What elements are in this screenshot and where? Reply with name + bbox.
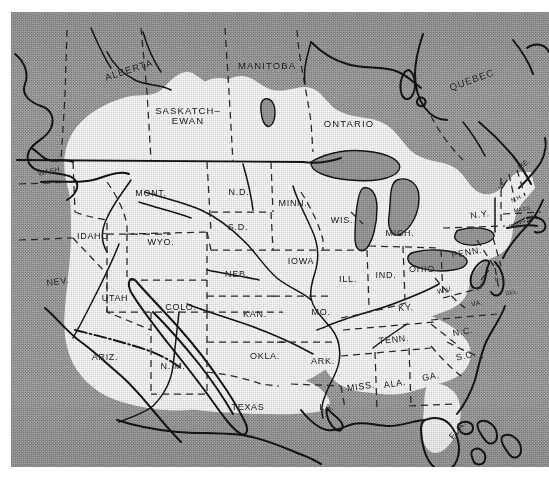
lake-winnipeg: [261, 99, 275, 127]
map-frame: ALBERTASASKATCH– EWANMANITOBAONTARIOQUEB…: [11, 12, 549, 467]
map-figure-page: ALBERTASASKATCH– EWANMANITOBAONTARIOQUEB…: [0, 0, 549, 487]
lake-ontario: [455, 228, 494, 245]
north-america-glaciation-map: [11, 12, 549, 467]
